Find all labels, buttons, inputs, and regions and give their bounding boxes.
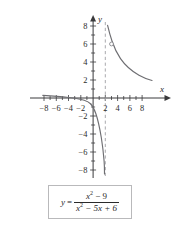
svg-text:−4: −4 — [64, 104, 74, 113]
svg-text:−6: −6 — [52, 104, 61, 113]
equation-fraction: x2 − 9 x2 − 5x + 6 — [74, 192, 119, 213]
svg-text:4: 4 — [116, 104, 121, 113]
equation: y = x2 − 9 x2 − 5x + 6 — [61, 192, 119, 213]
svg-text:2: 2 — [103, 104, 107, 113]
y-axis — [90, 15, 96, 178]
x-axis-label: x — [159, 84, 164, 94]
equation-denominator: x2 − 5x + 6 — [74, 203, 119, 213]
svg-text:−8: −8 — [40, 104, 49, 113]
svg-text:2: 2 — [83, 76, 87, 85]
svg-text:4: 4 — [83, 58, 88, 67]
graph-figure: −8 −6 −4 −2 2 4 6 8 8 6 4 2 −2 −4 −6 −8 … — [0, 0, 178, 227]
svg-text:−8: −8 — [79, 166, 88, 175]
equation-box: y = x2 − 9 x2 − 5x + 6 — [48, 185, 132, 219]
svg-text:6: 6 — [128, 104, 132, 113]
svg-text:8: 8 — [83, 22, 87, 31]
svg-text:−2: −2 — [79, 112, 88, 121]
equation-lhs: y — [61, 198, 65, 207]
svg-text:−4: −4 — [79, 130, 89, 139]
svg-text:−6: −6 — [79, 148, 88, 157]
svg-text:8: 8 — [140, 104, 144, 113]
equation-equals: = — [67, 198, 72, 207]
hole-marker — [110, 42, 114, 46]
numerator-rest: − 9 — [93, 191, 107, 201]
y-axis-label: y — [97, 14, 102, 24]
equation-numerator: x2 − 9 — [84, 192, 109, 202]
curve-right-branch — [108, 25, 152, 80]
denominator-rest: − 5x + 6 — [83, 203, 117, 213]
svg-text:6: 6 — [83, 40, 87, 49]
